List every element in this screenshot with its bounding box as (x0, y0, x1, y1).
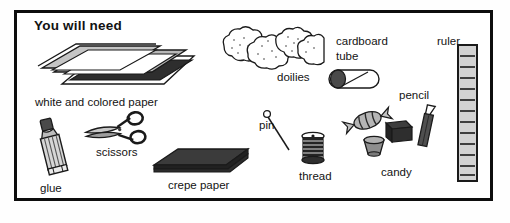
paper-stack-icon (36, 44, 196, 94)
label-thread: thread (299, 170, 332, 183)
label-white-and-colored-paper: white and colored paper (35, 96, 158, 109)
label-crepe-paper: crepe paper (168, 179, 229, 192)
scissors-icon (84, 114, 150, 150)
label-cardboard-tube-line2: tube (336, 50, 358, 63)
illustration-page: You will need white and colored paper do… (0, 0, 510, 223)
candy-icon (344, 112, 416, 158)
label-candy: candy (381, 166, 412, 179)
label-scissors: scissors (96, 146, 138, 159)
label-cardboard-tube-line1: cardboard (336, 35, 388, 48)
label-glue: glue (40, 182, 62, 195)
label-pencil: pencil (399, 89, 429, 102)
ruler-icon (456, 43, 482, 183)
crepe-paper-icon (152, 145, 252, 177)
doilies-icon (218, 26, 324, 72)
page-title: You will need (34, 18, 122, 33)
thread-spool-icon (298, 131, 328, 167)
cardboard-tube-icon (328, 68, 380, 90)
glue-tube-icon (34, 117, 74, 179)
label-pin: pin (259, 119, 274, 132)
label-doilies: doilies (277, 71, 310, 84)
